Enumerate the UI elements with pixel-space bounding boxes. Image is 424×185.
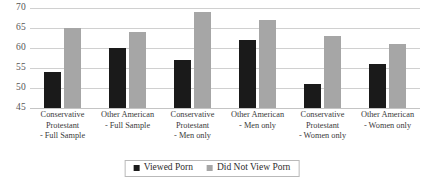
category-label-line: - Full Sample [96, 121, 159, 132]
legend-label: Did Not View Porn [217, 163, 290, 173]
bar[interactable] [369, 64, 386, 108]
y-axis-tick-label: 60 [16, 43, 26, 53]
bar-group [355, 8, 420, 108]
x-axis-category-label: ConservativeProtestant- Women only [290, 110, 355, 154]
category-label-line: Protestant [161, 121, 224, 132]
category-label-line: - Full Sample [31, 131, 94, 142]
y-axis-tick-label: 55 [16, 63, 26, 73]
bar-group [95, 8, 160, 108]
category-label-line: Protestant [31, 121, 94, 132]
bar[interactable] [194, 12, 211, 108]
x-axis-category-label: Other American- Full Sample [95, 110, 160, 154]
legend-label: Viewed Porn [144, 163, 193, 173]
plot-area: 706560555045 [30, 8, 420, 108]
category-label-line: - Women only [291, 131, 354, 142]
bars-layer [30, 8, 420, 108]
category-label-line: - Men only [161, 131, 224, 142]
y-axis-tick-label: 45 [16, 103, 26, 113]
bar[interactable] [109, 48, 126, 108]
bar[interactable] [324, 36, 341, 108]
bar[interactable] [389, 44, 406, 108]
x-axis-category-label: ConservativeProtestant- Full Sample [30, 110, 95, 154]
bar[interactable] [304, 84, 321, 108]
bar[interactable] [259, 20, 276, 108]
chart-legend: Viewed PornDid Not View Porn [125, 160, 300, 177]
y-axis-tick-label: 70 [16, 3, 26, 13]
x-axis-category-label: Other American- Women only [355, 110, 420, 154]
category-label-line: - Men only [226, 121, 289, 132]
gridline-45 [30, 108, 420, 109]
x-axis-category-label: ConservativeProtestant- Men only [160, 110, 225, 154]
bar[interactable] [64, 28, 81, 108]
bar-group [160, 8, 225, 108]
bar-group [30, 8, 95, 108]
bar[interactable] [129, 32, 146, 108]
bar-group [225, 8, 290, 108]
x-axis-category-labels: ConservativeProtestant- Full SampleOther… [30, 110, 420, 154]
x-axis-category-label: Other American- Men only [225, 110, 290, 154]
bar-group [290, 8, 355, 108]
legend-item[interactable]: Did Not View Porn [207, 163, 290, 173]
category-label-line: - Women only [356, 121, 419, 132]
category-label-line: Other American [226, 110, 289, 121]
category-label-line: Other American [96, 110, 159, 121]
y-axis-tick-label: 65 [16, 23, 26, 33]
legend-swatch-icon [207, 165, 213, 171]
bar[interactable] [239, 40, 256, 108]
bar[interactable] [174, 60, 191, 108]
category-label-line: Conservative [161, 110, 224, 121]
legend-swatch-icon [134, 165, 140, 171]
category-label-line: Conservative [291, 110, 354, 121]
category-label-line: Conservative [31, 110, 94, 121]
category-label-line: Protestant [291, 121, 354, 132]
bar[interactable] [44, 72, 61, 108]
bar-chart: 706560555045 ConservativeProtestant- Ful… [0, 0, 424, 185]
legend-item[interactable]: Viewed Porn [134, 163, 193, 173]
y-axis-tick-label: 50 [16, 83, 26, 93]
category-label-line: Other American [356, 110, 419, 121]
